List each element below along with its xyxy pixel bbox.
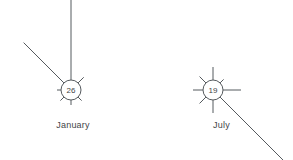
wind-rose-figure: 2619 January July (0, 0, 293, 160)
wind-rose-july: 19 (193, 67, 288, 160)
wind-spoke-january-nw (24, 43, 64, 83)
calm-value-january: 26 (67, 86, 76, 95)
calm-value-july: 19 (209, 86, 218, 95)
wind-spoke-july-ne (220, 79, 224, 83)
wind-spoke-july-nw (200, 77, 206, 83)
wind-rose-canvas: 2619 (0, 0, 293, 160)
wind-spoke-january-ne (78, 77, 84, 83)
rose-label-july: July (150, 120, 293, 130)
wind-spoke-july-sw (200, 97, 206, 103)
rose-label-january: January (0, 120, 146, 130)
wind-spoke-january-se (78, 97, 82, 101)
wind-rose-january: 26 (24, 0, 84, 105)
wind-spoke-january-sw (60, 97, 64, 101)
